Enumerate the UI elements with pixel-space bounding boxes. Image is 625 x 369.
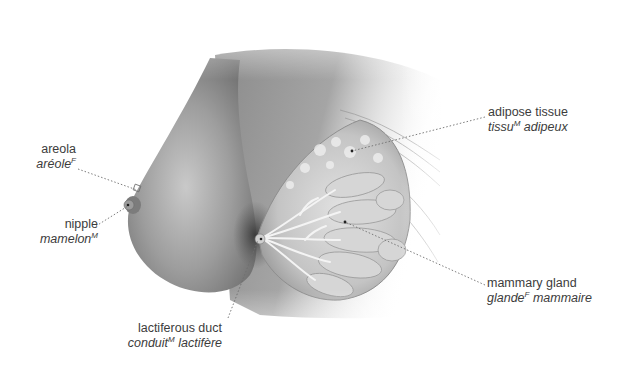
breast-illustration: [0, 0, 625, 369]
breast-outer: [124, 58, 257, 292]
label-nipple-en: nipple: [20, 217, 98, 232]
gender-marker: F: [71, 156, 76, 165]
leader-areola: [78, 169, 137, 190]
label-areola-fr: aréoleF: [26, 157, 76, 172]
label-lactiferous-duct-en: lactiferous duct: [120, 321, 222, 336]
label-lactiferous-duct-fr: conduitM lactifère: [120, 336, 222, 351]
label-adipose-tissue-en: adipose tissue: [488, 105, 568, 120]
label-lactiferous-duct: lactiferous duct conduitM lactifère: [120, 321, 222, 351]
gender-marker: M: [168, 335, 175, 344]
label-areola-en: areola: [26, 142, 76, 157]
label-mammary-gland-fr: glandeF mammaire: [487, 291, 592, 306]
gender-marker: M: [91, 231, 98, 240]
label-nipple: nipple mamelonM: [20, 217, 98, 247]
label-adipose-tissue-fr: tissuM adipeux: [488, 120, 568, 135]
label-mammary-gland-en: mammary gland: [487, 276, 592, 291]
label-areola: areola aréoleF: [26, 142, 76, 172]
label-mammary-gland: mammary gland glandeF mammaire: [487, 276, 592, 306]
label-nipple-fr: mamelonM: [20, 232, 98, 247]
anatomy-figure: areola aréoleF nipple mamelonM adipose t…: [0, 0, 625, 369]
leader-nipple: [96, 206, 128, 226]
label-adipose-tissue: adipose tissue tissuM adipeux: [488, 105, 568, 135]
